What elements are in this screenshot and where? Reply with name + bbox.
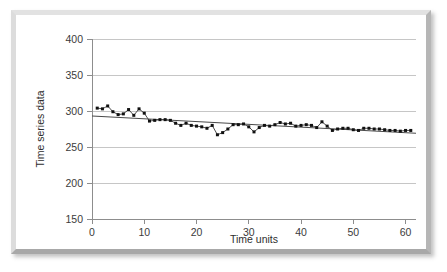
data-point [195, 125, 198, 128]
data-point [362, 127, 365, 130]
time-series-chart: 400 350 300 250 200 150 0102030405060 [16, 15, 426, 249]
data-point [399, 130, 402, 133]
x-tick-label-40: 40 [295, 226, 307, 238]
y-axis: 400 350 300 250 200 150 [65, 33, 92, 225]
y-tick-label-300: 300 [65, 105, 83, 117]
x-tick-label-0: 0 [89, 226, 95, 238]
data-point [263, 124, 266, 127]
data-point [117, 113, 120, 116]
data-point [216, 133, 219, 136]
x-tick-label-50: 50 [347, 226, 359, 238]
data-point [367, 127, 370, 130]
data-point [111, 110, 114, 113]
data-point [352, 128, 355, 131]
data-point [409, 129, 412, 132]
data-point [226, 128, 229, 131]
data-point [122, 112, 125, 115]
data-point [242, 122, 245, 125]
data-point [185, 122, 188, 125]
chart-plot-container: 400 350 300 250 200 150 0102030405060 [16, 15, 426, 249]
data-point [336, 128, 339, 131]
data-point [258, 126, 261, 129]
data-point [205, 127, 208, 130]
x-tick-label-20: 20 [191, 226, 203, 238]
data-point [326, 125, 329, 128]
data-point [289, 122, 292, 125]
data-point [153, 119, 156, 122]
data-point [164, 118, 167, 121]
data-point [190, 124, 193, 127]
data-series-group [92, 104, 416, 136]
data-point [388, 129, 391, 132]
data-point [310, 124, 313, 127]
data-point [96, 107, 99, 110]
data-point [200, 125, 203, 128]
data-point [138, 107, 141, 110]
x-axis-title: Time units [230, 233, 278, 245]
data-point [143, 112, 146, 115]
data-point [404, 129, 407, 132]
data-point [284, 122, 287, 125]
data-point [331, 129, 334, 132]
data-point [347, 127, 350, 130]
data-point [148, 120, 151, 123]
y-tick-label-400: 400 [65, 33, 83, 45]
y-tick-label-150: 150 [65, 213, 83, 225]
gridlines [92, 39, 416, 219]
data-point [273, 123, 276, 126]
y-tick-label-200: 200 [65, 177, 83, 189]
data-point [101, 107, 104, 110]
data-point [158, 118, 161, 121]
data-point [127, 108, 130, 111]
data-point [315, 126, 318, 129]
data-point [341, 127, 344, 130]
x-tick-label-60: 60 [400, 226, 412, 238]
figure-root: 400 350 300 250 200 150 0102030405060 [0, 0, 447, 272]
data-point [378, 128, 381, 131]
data-point [237, 123, 240, 126]
data-point [106, 104, 109, 107]
data-point [253, 130, 256, 133]
data-point [394, 129, 397, 132]
data-point [232, 123, 235, 126]
data-point [211, 124, 214, 127]
data-point [300, 124, 303, 127]
x-tick-marks [92, 219, 406, 224]
data-point [247, 125, 250, 128]
data-point [373, 128, 376, 131]
data-point-markers [96, 104, 413, 136]
data-point [174, 122, 177, 125]
y-axis-title: Time series data [34, 90, 46, 167]
chart-frame: 400 350 300 250 200 150 0102030405060 [11, 10, 431, 254]
data-point [268, 125, 271, 128]
data-point [279, 121, 282, 124]
data-point [305, 123, 308, 126]
data-point [320, 120, 323, 123]
data-point [179, 124, 182, 127]
data-point [132, 114, 135, 117]
y-tick-label-250: 250 [65, 141, 83, 153]
y-tick-label-350: 350 [65, 69, 83, 81]
x-tick-label-10: 10 [138, 226, 150, 238]
data-point [357, 129, 360, 132]
data-point [383, 128, 386, 131]
data-point [169, 119, 172, 122]
data-point [294, 125, 297, 128]
data-point [221, 131, 224, 134]
